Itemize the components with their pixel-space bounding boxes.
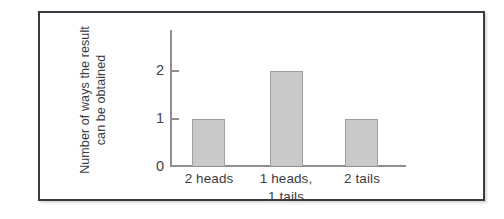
y-tick-label-1: 1 — [144, 111, 164, 126]
figure-root: Number of ways the result can be obtaine… — [0, 0, 504, 219]
y-tick-label-2: 2 — [144, 63, 164, 78]
y-axis-line — [170, 30, 172, 167]
y-axis-title-line-1: Number of ways the result — [77, 26, 93, 174]
bar-2-tails — [345, 119, 378, 167]
y-tick-mark-2 — [172, 70, 179, 72]
y-tick-label-0: 0 — [144, 159, 164, 174]
y-axis-title: Number of ways the result can be obtaine… — [18, 25, 168, 175]
plot-area: Number of ways the result can be obtaine… — [40, 13, 487, 203]
x-tick-label-line-2: 1 tails — [241, 188, 331, 206]
x-tick-label-line-1: 1 heads, — [260, 171, 313, 186]
bar-1-heads-1-tails — [270, 71, 303, 166]
bar-2-heads — [192, 119, 225, 167]
y-axis-title-line-2: can be obtained — [93, 55, 109, 145]
x-tick-label-line-1: 2 heads — [185, 171, 234, 186]
x-tick-label-line-1: 2 tails — [344, 171, 380, 186]
x-tick-label-2-tails: 2 tails — [317, 170, 407, 188]
chart-frame: Number of ways the result can be obtaine… — [38, 11, 485, 201]
y-tick-mark-1 — [172, 118, 179, 120]
